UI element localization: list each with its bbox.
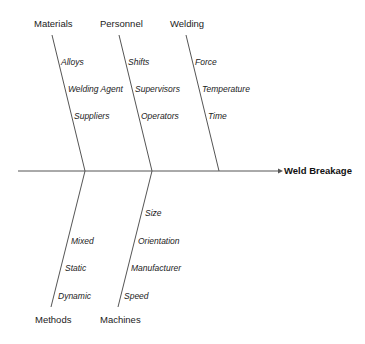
cause-suppliers: Suppliers (74, 111, 109, 121)
cause-orientation: Orientation (138, 236, 180, 246)
arrowhead-icon (278, 169, 283, 174)
cause-speed: Speed (124, 291, 149, 301)
cause-supervisors: Supervisors (135, 84, 180, 94)
cause-time: Time (208, 111, 227, 121)
cause-dynamic: Dynamic (58, 291, 91, 301)
category-methods: Methods (35, 314, 71, 325)
cause-mixed: Mixed (71, 236, 94, 246)
category-welding: Welding (170, 18, 204, 29)
cause-manufacturer: Manufacturer (131, 263, 181, 273)
bone-materials (52, 35, 85, 171)
cause-temperature: Temperature (202, 84, 250, 94)
cause-force: Force (195, 57, 217, 67)
effect-label: Weld Breakage (284, 165, 352, 176)
bone-welding (186, 35, 219, 171)
category-machines: Machines (100, 314, 141, 325)
category-materials: Materials (34, 18, 73, 29)
cause-operators: Operators (141, 111, 179, 121)
cause-shifts: Shifts (128, 57, 149, 67)
bone-personnel (119, 35, 152, 171)
cause-static: Static (65, 263, 86, 273)
cause-alloys: Alloys (61, 57, 84, 67)
cause-welding-agent: Welding Agent (68, 84, 123, 94)
cause-size: Size (145, 208, 162, 218)
category-personnel: Personnel (100, 18, 143, 29)
